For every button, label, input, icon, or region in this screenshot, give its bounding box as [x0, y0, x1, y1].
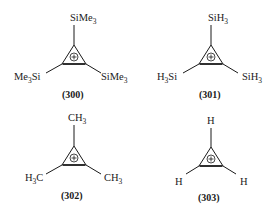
bond-left [46, 165, 62, 174]
bond-left [183, 64, 199, 73]
positive-charge-icon [70, 154, 78, 162]
substituent-right: SiMe3 [101, 71, 128, 85]
bond-right [86, 165, 101, 174]
compound-label: (300) [62, 89, 84, 101]
bond-right [223, 166, 236, 174]
substituent-left: H3C [25, 172, 43, 186]
compound-label: (303) [198, 192, 220, 204]
cyclopropenylium-diagram: SiMe3 Me3Si SiMe3 (300) SiH3 H3Si SiH3 (… [0, 0, 275, 216]
substituent-left: H [175, 176, 183, 187]
substituent-top: CH3 [68, 112, 87, 126]
positive-charge-icon [70, 53, 78, 61]
substituent-left: H3Si [157, 71, 177, 85]
substituent-top: SiH3 [208, 12, 228, 26]
bond-right [86, 64, 101, 73]
bond-right [223, 64, 238, 73]
substituent-left: Me3Si [14, 71, 41, 85]
structure-301: SiH3 H3Si SiH3 (301) [157, 12, 262, 101]
positive-charge-icon [207, 155, 215, 163]
positive-charge-icon [207, 53, 215, 61]
compound-label: (301) [199, 89, 221, 101]
substituent-top: SiMe3 [70, 12, 97, 26]
bond-left [186, 166, 199, 174]
substituent-right: H [240, 176, 248, 187]
substituent-right: CH3 [104, 172, 123, 186]
structure-302: CH3 H3C CH3 (302) [25, 112, 123, 202]
compound-label: (302) [61, 190, 83, 202]
structure-300: SiMe3 Me3Si SiMe3 (300) [14, 12, 128, 101]
substituent-top: H [207, 115, 215, 126]
bond-left [46, 64, 62, 73]
substituent-right: SiH3 [242, 71, 262, 85]
structure-303: H H H (303) [175, 115, 248, 204]
